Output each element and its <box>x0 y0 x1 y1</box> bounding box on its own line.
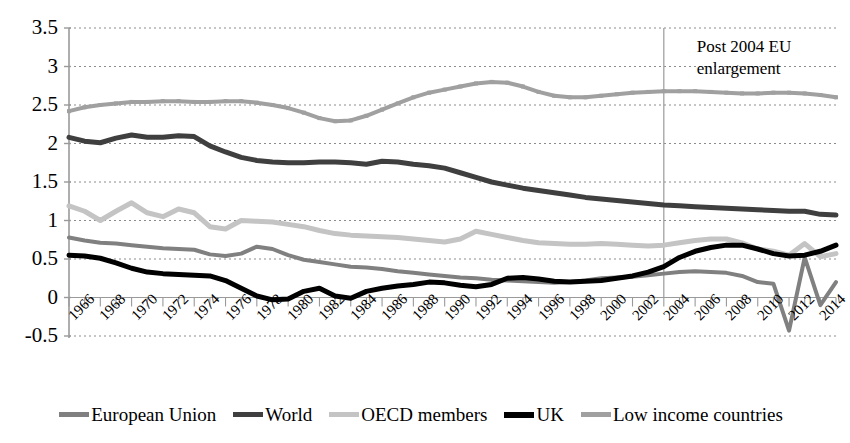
legend-label: World <box>265 404 312 426</box>
series-marker <box>646 90 650 94</box>
series-marker <box>317 116 321 120</box>
series-marker <box>584 95 588 99</box>
series-marker <box>458 85 462 89</box>
legend-label: Low income countries <box>613 404 783 426</box>
series-line-low-income-countries <box>69 82 836 121</box>
series-marker <box>114 101 118 105</box>
series-marker <box>192 100 196 104</box>
series-marker <box>677 89 681 93</box>
series-marker <box>130 100 134 104</box>
series-marker <box>161 99 165 103</box>
series-marker <box>521 85 525 89</box>
series-marker <box>803 91 807 95</box>
y-axis-tick-label: 2 <box>0 133 58 154</box>
y-axis-tick-label: 1.5 <box>0 171 58 192</box>
series-marker <box>599 94 603 98</box>
series-marker <box>98 103 102 107</box>
y-axis-tick-label: 3.5 <box>0 17 58 38</box>
legend-label: OECD members <box>361 404 487 426</box>
series-marker <box>177 99 181 103</box>
series-marker <box>208 100 212 104</box>
series-marker <box>443 88 447 92</box>
series-marker <box>537 90 541 94</box>
series-line-world <box>69 135 836 215</box>
series-marker <box>740 91 744 95</box>
series-marker <box>662 89 666 93</box>
y-axis-tick-label: -0.5 <box>0 325 58 346</box>
series-marker <box>771 91 775 95</box>
legend-swatch-icon <box>233 412 263 417</box>
series-marker <box>364 114 368 118</box>
series-marker <box>724 91 728 95</box>
y-axis-tick-label: 2.5 <box>0 94 58 115</box>
series-marker <box>787 91 791 95</box>
legend-swatch-icon <box>504 412 534 418</box>
series-marker <box>709 90 713 94</box>
series-marker <box>474 81 478 85</box>
series-marker <box>67 109 71 113</box>
y-axis-tick-label: 3 <box>0 56 58 77</box>
series-marker <box>239 99 243 103</box>
series-marker <box>380 108 384 112</box>
series-marker <box>505 81 509 85</box>
y-axis-tick-label: 1 <box>0 210 58 231</box>
series-marker <box>83 105 87 109</box>
series-marker <box>552 94 556 98</box>
legend-item[interactable]: European Union <box>59 404 216 426</box>
y-axis-tick-label: 0 <box>0 287 58 308</box>
legend-swatch-icon <box>581 412 611 417</box>
legend-item[interactable]: World <box>233 404 312 426</box>
series-marker <box>756 91 760 95</box>
series-marker <box>255 101 259 105</box>
y-axis-tick-label: 0.5 <box>0 248 58 269</box>
series-marker <box>818 93 822 97</box>
legend-item[interactable]: Low income countries <box>581 404 783 426</box>
legend-swatch-icon <box>59 412 89 417</box>
legend-item[interactable]: UK <box>504 404 563 426</box>
series-marker <box>286 106 290 110</box>
series-marker <box>396 101 400 105</box>
series-marker <box>302 111 306 115</box>
series-marker <box>224 99 228 103</box>
series-marker <box>333 119 337 123</box>
series-marker <box>834 95 838 99</box>
legend-swatch-icon <box>329 412 359 417</box>
chart-annotation: Post 2004 EU enlargement <box>697 36 791 80</box>
series-marker <box>270 103 274 107</box>
series-marker <box>615 92 619 96</box>
legend-label: European Union <box>91 404 216 426</box>
series-marker <box>411 95 415 99</box>
chart-legend: European UnionWorldOECD membersUKLow inc… <box>0 392 842 437</box>
series-marker <box>490 80 494 84</box>
series-marker <box>349 118 353 122</box>
series-marker <box>427 91 431 95</box>
series-marker <box>693 89 697 93</box>
series-marker <box>145 100 149 104</box>
legend-label: UK <box>536 404 563 426</box>
legend-item[interactable]: OECD members <box>329 404 487 426</box>
series-marker <box>568 95 572 99</box>
series-marker <box>631 91 635 95</box>
